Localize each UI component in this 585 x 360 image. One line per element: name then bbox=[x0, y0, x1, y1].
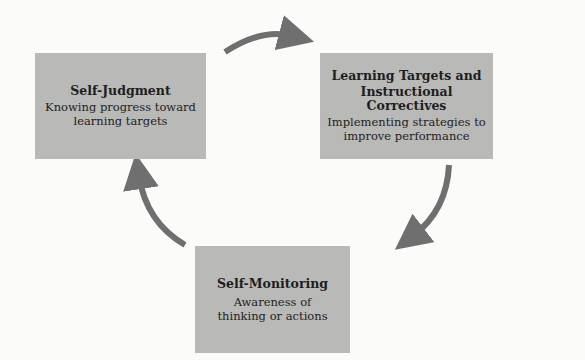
node-self-judgment: Self-Judgment Knowing progress toward le… bbox=[35, 53, 206, 159]
node-title: Self-Judgment bbox=[70, 84, 170, 98]
node-self-monitoring: Self-Monitoring Awareness of thinking or… bbox=[195, 246, 350, 353]
node-title-line: Instructional Correctives bbox=[320, 85, 493, 113]
node-title: Self-Monitoring bbox=[217, 277, 328, 291]
node-description-line: learning targets bbox=[73, 114, 167, 128]
node-learning-targets: Learning Targets and Instructional Corre… bbox=[320, 53, 493, 159]
node-description-line: Implementing strategies to bbox=[327, 115, 485, 129]
node-description-line: improve performance bbox=[343, 129, 469, 143]
arrow-monitoring-to-judgment bbox=[139, 176, 185, 245]
arrow-judgment-to-targets bbox=[225, 34, 292, 52]
node-title-line: Learning Targets and bbox=[331, 69, 481, 83]
node-description-line: thinking or actions bbox=[217, 309, 327, 323]
node-description-line: Knowing progress toward bbox=[45, 100, 196, 114]
arrow-targets-to-monitoring bbox=[413, 165, 449, 236]
node-description-line: Awareness of bbox=[234, 295, 312, 309]
